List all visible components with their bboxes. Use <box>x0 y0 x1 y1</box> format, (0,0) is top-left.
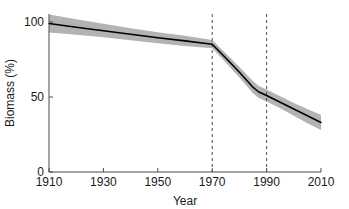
chart-canvas: 191019301950197019902010 050100 Year Bio… <box>0 0 349 209</box>
x-tick-label: 1930 <box>90 175 117 189</box>
y-tick-label: 100 <box>24 15 44 29</box>
y-axis-title: Biomass (%) <box>3 59 17 127</box>
y-tick-label: 50 <box>31 90 45 104</box>
x-tick-label: 2010 <box>308 175 335 189</box>
x-tick-label: 1970 <box>199 175 226 189</box>
x-tick-label: 1990 <box>253 175 280 189</box>
y-tick-label: 0 <box>37 165 44 179</box>
biomass-year-chart: 191019301950197019902010 050100 Year Bio… <box>0 0 349 209</box>
x-tick-label: 1950 <box>144 175 171 189</box>
x-axis-title: Year <box>173 194 197 208</box>
